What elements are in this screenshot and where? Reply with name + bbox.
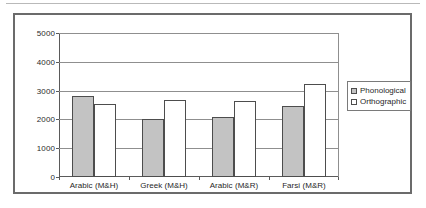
- chart-legend: PhonologicalOrthographic: [347, 81, 411, 111]
- y-axis-tick-5000: [56, 33, 59, 34]
- gridline-3000: [59, 91, 339, 92]
- chart-page: 010002000300040005000 Arabic (M&H)Greek …: [0, 0, 426, 208]
- white-square-swatch: [351, 99, 357, 105]
- y-axis-label-2000: 2000: [37, 115, 55, 124]
- plot-right-edge: [338, 33, 339, 177]
- bar-phonological-1: [142, 119, 164, 177]
- x-axis-label-0: Arabic (M&H): [70, 181, 119, 190]
- y-axis-label-1000: 1000: [37, 144, 55, 153]
- page-top-divider: [6, 3, 420, 4]
- gridline-4000: [59, 62, 339, 63]
- y-axis-label-5000: 5000: [37, 29, 55, 38]
- bar-orthographic-0: [94, 104, 116, 177]
- x-axis-tick-labels: Arabic (M&H)Greek (M&H)Arabic (M&R)Farsi…: [59, 179, 339, 195]
- y-axis-label-3000: 3000: [37, 86, 55, 95]
- legend-item-orthographic: Orthographic: [351, 96, 406, 107]
- x-axis-label-3: Farsi (M&R): [282, 181, 326, 190]
- gray-square-swatch: [351, 88, 357, 94]
- gridline-5000: [59, 33, 339, 34]
- plot-area: [59, 33, 339, 177]
- y-axis-label-4000: 4000: [37, 57, 55, 66]
- y-axis-tick-3000: [56, 91, 59, 92]
- y-axis-tick-1000: [56, 148, 59, 149]
- y-axis-line: [59, 33, 60, 177]
- bar-phonological-3: [282, 106, 304, 177]
- chart-frame: 010002000300040005000 Arabic (M&H)Greek …: [13, 13, 412, 194]
- legend-label: Orthographic: [360, 97, 406, 107]
- bar-orthographic-2: [234, 101, 256, 177]
- y-axis-tick-labels: 010002000300040005000: [27, 15, 55, 192]
- legend-label: Phonological: [360, 86, 406, 96]
- x-axis-label-2: Arabic (M&R): [210, 181, 259, 190]
- bar-orthographic-3: [304, 84, 326, 177]
- bar-phonological-2: [212, 117, 234, 177]
- chart-plot-wrapper: 010002000300040005000 Arabic (M&H)Greek …: [15, 15, 410, 192]
- bar-phonological-0: [72, 96, 94, 177]
- legend-item-phonological: Phonological: [351, 85, 406, 96]
- y-axis-tick-2000: [56, 119, 59, 120]
- y-axis-label-0: 0: [50, 173, 55, 182]
- x-axis-label-1: Greek (M&H): [140, 181, 188, 190]
- y-axis-tick-4000: [56, 62, 59, 63]
- bar-orthographic-1: [164, 100, 186, 177]
